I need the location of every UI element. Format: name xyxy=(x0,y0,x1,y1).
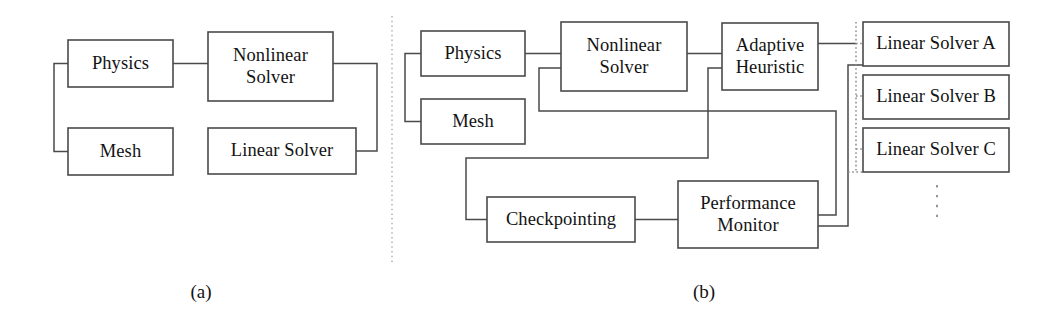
box-nonlinear_a xyxy=(208,32,333,101)
connector-physics-mesh-bracket xyxy=(54,64,68,152)
box-linear_solver_c_b xyxy=(863,128,1009,172)
panel-a-caption: (a) xyxy=(190,281,211,303)
diagram-canvas xyxy=(0,0,1061,318)
figure-diagram: PhysicsMeshNonlinear SolverLinear Solver… xyxy=(0,0,1061,318)
box-mesh_a xyxy=(68,128,173,175)
box-performance_monitor xyxy=(678,181,818,248)
box-nonlinear_b xyxy=(561,22,687,91)
box-linear_solver_a_b xyxy=(863,22,1009,66)
box-mesh_b xyxy=(421,99,525,144)
box-physics_b xyxy=(421,31,525,76)
panel-b-graphics xyxy=(405,22,1009,248)
box-linear_solver_b_b xyxy=(863,75,1009,119)
panel-a-graphics xyxy=(54,32,377,175)
box-adaptive_heuristic xyxy=(722,23,818,90)
panel-b-caption: (b) xyxy=(693,281,715,303)
connector-physics-mesh-bracket-b xyxy=(405,54,421,122)
connector-perf-to-solvers xyxy=(818,65,863,226)
box-physics_a xyxy=(68,40,173,87)
box-checkpointing xyxy=(487,197,635,242)
box-linear_solver_a xyxy=(208,128,356,174)
